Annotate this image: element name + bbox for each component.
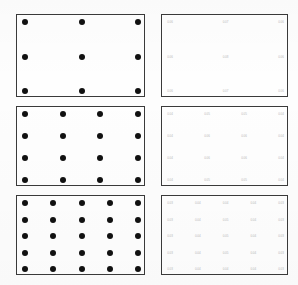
grid-dot — [60, 133, 66, 139]
grid-dot — [135, 54, 141, 60]
panel-top-left-plot-area — [17, 15, 144, 96]
grid-value-label: 0.04 — [278, 135, 283, 138]
grid-value-label: 0.05 — [223, 251, 228, 254]
grid-value-label: 0.04 — [195, 218, 200, 221]
panel-bottom-right: 0.030.040.040.040.030.030.040.050.040.03… — [161, 195, 288, 275]
grid-dot — [107, 233, 113, 239]
grid-value-label: 0.06 — [167, 55, 172, 58]
grid-dot — [79, 217, 85, 223]
grid-value-label: 0.04 — [278, 157, 283, 160]
grid-value-label: 0.04 — [195, 268, 200, 271]
grid-dot — [50, 266, 56, 272]
grid-value-label: 0.03 — [278, 251, 283, 254]
grid-value-label: 0.03 — [167, 235, 172, 238]
grid-dot — [22, 217, 28, 223]
grid-dot — [107, 217, 113, 223]
grid-value-label: 0.04 — [251, 251, 256, 254]
grid-dot — [135, 233, 141, 239]
grid-value-label: 0.04 — [251, 218, 256, 221]
grid-value-label: 0.05 — [223, 235, 228, 238]
grid-dot — [79, 200, 85, 206]
grid-dot — [79, 233, 85, 239]
grid-value-label: 0.04 — [195, 235, 200, 238]
grid-dot — [60, 155, 66, 161]
grid-value-label: 0.05 — [241, 179, 246, 182]
panel-bottom-left-plot-area — [17, 196, 144, 274]
grid-dot — [22, 111, 28, 117]
panel-top-right: 0.060.070.060.060.080.060.060.070.06 — [161, 14, 288, 97]
grid-dot — [107, 200, 113, 206]
grid-value-label: 0.06 — [167, 21, 172, 24]
grid-dot — [97, 177, 103, 183]
grid-dot — [22, 133, 28, 139]
grid-dot — [97, 111, 103, 117]
grid-value-label: 0.06 — [278, 21, 283, 24]
grid-value-label: 0.08 — [223, 55, 228, 58]
grid-dot — [79, 250, 85, 256]
grid-dot — [50, 200, 56, 206]
grid-value-label: 0.04 — [251, 202, 256, 205]
grid-dot — [135, 177, 141, 183]
grid-dot — [22, 233, 28, 239]
panel-middle-left-plot-area — [17, 107, 144, 185]
grid-value-label: 0.03 — [167, 268, 172, 271]
grid-value-label: 0.07 — [223, 90, 228, 93]
grid-value-label: 0.06 — [204, 135, 209, 138]
grid-value-label: 0.03 — [167, 202, 172, 205]
grid-value-label: 0.04 — [167, 113, 172, 116]
grid-value-label: 0.07 — [223, 21, 228, 24]
grid-dot — [22, 88, 28, 94]
grid-value-label: 0.03 — [278, 218, 283, 221]
grid-dot — [107, 266, 113, 272]
grid-dot — [60, 111, 66, 117]
grid-dot — [79, 88, 85, 94]
grid-dot — [135, 111, 141, 117]
grid-value-label: 0.04 — [251, 268, 256, 271]
grid-dot — [22, 155, 28, 161]
grid-dot — [60, 177, 66, 183]
panel-top-right-plot-area: 0.060.070.060.060.080.060.060.070.06 — [162, 15, 287, 96]
grid-dot — [97, 133, 103, 139]
grid-value-label: 0.04 — [223, 202, 228, 205]
grid-dot — [22, 177, 28, 183]
grid-value-label: 0.03 — [167, 251, 172, 254]
grid-value-label: 0.06 — [241, 157, 246, 160]
grid-value-label: 0.06 — [167, 90, 172, 93]
grid-value-label: 0.04 — [278, 113, 283, 116]
grid-dot — [135, 19, 141, 25]
grid-dot — [135, 88, 141, 94]
grid-dot — [22, 266, 28, 272]
grid-value-label: 0.05 — [204, 113, 209, 116]
grid-value-label: 0.06 — [278, 90, 283, 93]
grid-dot — [50, 250, 56, 256]
panel-top-left — [16, 14, 145, 97]
grid-dot — [79, 19, 85, 25]
grid-value-label: 0.05 — [241, 113, 246, 116]
panel-middle-left — [16, 106, 145, 186]
grid-value-label: 0.03 — [278, 202, 283, 205]
grid-dot — [50, 233, 56, 239]
grid-dot — [22, 19, 28, 25]
grid-value-label: 0.06 — [241, 135, 246, 138]
grid-dot — [79, 266, 85, 272]
grid-value-label: 0.04 — [167, 179, 172, 182]
grid-value-label: 0.06 — [278, 55, 283, 58]
grid-dot — [79, 54, 85, 60]
grid-dot — [22, 54, 28, 60]
panel-bottom-left — [16, 195, 145, 275]
figure-root: 0.060.070.060.060.080.060.060.070.060.04… — [0, 0, 298, 285]
grid-dot — [97, 155, 103, 161]
grid-value-label: 0.04 — [167, 157, 172, 160]
grid-dot — [50, 217, 56, 223]
grid-dot — [135, 217, 141, 223]
grid-value-label: 0.04 — [278, 179, 283, 182]
grid-value-label: 0.04 — [251, 235, 256, 238]
grid-dot — [135, 155, 141, 161]
grid-dot — [107, 250, 113, 256]
grid-dot — [135, 266, 141, 272]
grid-dot — [135, 250, 141, 256]
grid-dot — [135, 200, 141, 206]
grid-value-label: 0.04 — [195, 202, 200, 205]
grid-value-label: 0.03 — [167, 218, 172, 221]
panel-bottom-right-plot-area: 0.030.040.040.040.030.030.040.050.040.03… — [162, 196, 287, 274]
